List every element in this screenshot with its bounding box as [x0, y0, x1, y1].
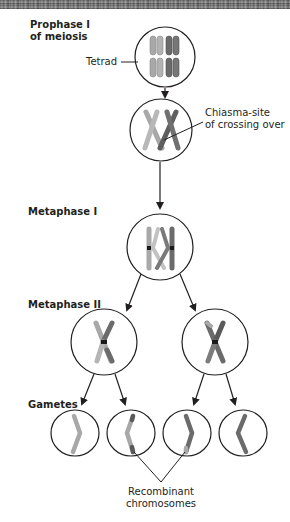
- label-chiasma-line2: of crossing over: [205, 119, 286, 130]
- arrow-to-gamete-3: [194, 374, 204, 404]
- label-recombinant-line2: chromosomes: [126, 498, 196, 509]
- chiasma-chromosomes: [145, 112, 178, 148]
- gamete-3-recombinant: [163, 410, 211, 456]
- arrow-to-gamete-4: [226, 374, 235, 404]
- gamete-4: [219, 410, 267, 456]
- gamete-2-recombinant: [107, 410, 155, 456]
- metaphase2-left-cell: [71, 309, 137, 375]
- label-metaphase-2: Metaphase II: [28, 299, 101, 310]
- label-prophase-line2: of meiosis: [30, 31, 88, 42]
- recombinant-pointer-left: [134, 452, 161, 482]
- label-gametes: Gametes: [28, 399, 78, 410]
- metaphase2-right-cell: [182, 309, 248, 375]
- label-metaphase-1: Metaphase I: [28, 206, 97, 217]
- metaphase1-chromosomes: [147, 229, 174, 268]
- recombinant-pointer-right: [161, 452, 185, 482]
- arrow-metaphase1-to-left: [127, 274, 141, 310]
- arrow-to-gamete-1: [82, 374, 94, 404]
- tetrad-cell: [135, 27, 195, 87]
- label-recombinant-line1: Recombinant: [128, 486, 194, 497]
- label-tetrad: Tetrad: [85, 56, 117, 67]
- meiosis-diagram: Prophase I of meiosis Metaphase I Metaph…: [0, 0, 290, 522]
- metaphase1-cell: [127, 214, 193, 280]
- arrow-to-gamete-2: [115, 374, 125, 404]
- tetrad-chromosomes: [150, 36, 179, 77]
- chiasma-cell: [130, 99, 192, 161]
- label-chiasma-line1: Chiasma-site: [205, 107, 270, 118]
- gamete-1: [51, 410, 99, 456]
- label-prophase-line1: Prophase I: [30, 19, 90, 30]
- arrow-metaphase1-to-right: [180, 274, 195, 310]
